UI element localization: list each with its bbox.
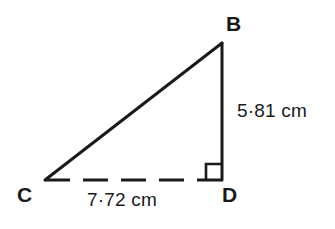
side-cb-hypotenuse	[45, 43, 222, 180]
right-angle-marker-icon	[206, 164, 222, 180]
vertex-label-b: B	[226, 13, 241, 34]
measurement-label-vertical: 5·81 cm	[237, 101, 307, 120]
measurement-label-horizontal: 7·72 cm	[87, 190, 157, 209]
vertex-label-d: D	[222, 184, 237, 205]
vertex-label-c: C	[17, 184, 32, 205]
geometry-figure: B C D 5·81 cm 7·72 cm	[0, 0, 335, 229]
